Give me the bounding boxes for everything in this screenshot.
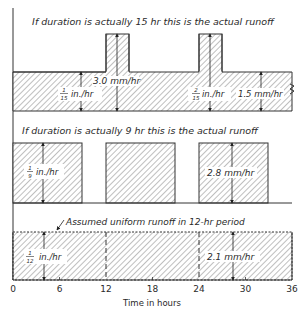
middle-panel: If duration is actually 9 hr this is the… [13,125,292,203]
x-tick-label: 12 [100,284,111,294]
top-right-frac-num: 2 [194,87,198,93]
middle-block-2 [106,143,175,203]
x-axis-title: Time in hours [122,298,181,308]
top-left-frac-num: 1 [62,87,66,93]
top-left-unit: in./hr [71,89,94,99]
bottom-label-mm: 2.1 mm/hr [207,252,255,262]
x-tick-label: 30 [240,284,252,294]
top-right-unit: in./hr [202,89,225,99]
top-panel: If duration is actually 15 hr this is th… [13,16,294,111]
middle-panel-title: If duration is actually 9 hr this is the… [22,125,259,136]
leader-arrow-icon [57,220,64,230]
x-tick-label: 18 [147,284,159,294]
top-label-mm: 3.0 mm/hr [93,76,141,86]
top-left-frac-den: 15 [61,95,68,101]
runoff-diagram: If duration is actually 15 hr this is th… [0,0,305,315]
bottom-panel-title: Assumed uniform runoff in 12-hr period [65,217,245,227]
top-panel-title: If duration is actually 15 hr this is th… [32,16,275,27]
middle-label-mm: 2.8 mm/hr [207,168,255,178]
x-tick-label: 6 [57,284,63,294]
bottom-panel: Assumed uniform runoff in 12-hr period 1… [13,217,292,280]
middle-frac-den: 9 [28,173,32,179]
top-right-mm: 1.5 mm/hr [238,89,283,99]
top-right-frac-den: 15 [193,95,200,101]
middle-frac-num: 1 [28,165,32,171]
middle-unit: in./hr [36,167,59,177]
x-tick-label: 24 [193,284,205,294]
bottom-frac-den: 12 [27,258,34,264]
bottom-frac-num: 1 [28,250,32,256]
x-tick-label: 0 [10,284,16,294]
x-tick-label: 36 [286,284,298,294]
top-peak-1 [106,34,129,73]
bottom-unit: in./hr [39,252,62,262]
top-peak-2 [199,34,222,73]
